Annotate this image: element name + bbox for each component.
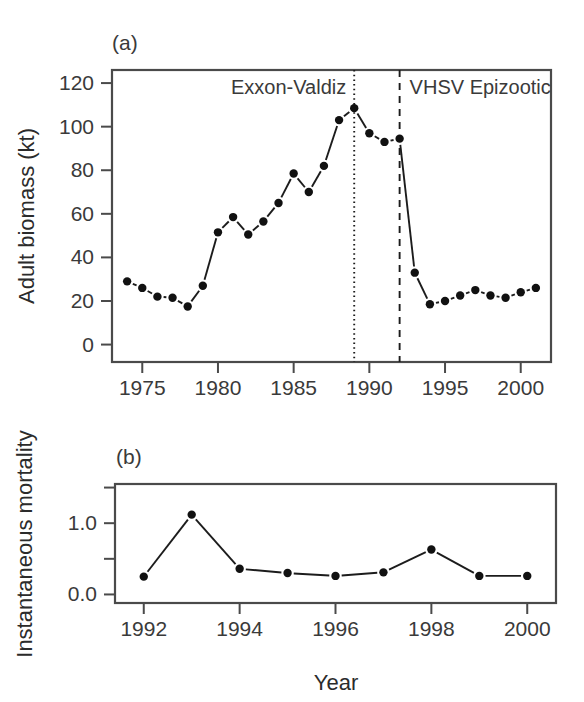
panel-a-segment	[191, 291, 199, 302]
panel-b-segment	[196, 519, 236, 564]
panel-b-xtick-label: 1998	[408, 617, 455, 640]
panel-b-segment	[148, 520, 188, 572]
panel-a-segment	[205, 238, 217, 279]
panel-a-data-point	[214, 228, 222, 236]
panel-b-label: (b)	[116, 445, 142, 468]
panel-a-data-point	[229, 213, 237, 221]
panel-a-data-point	[199, 282, 207, 290]
panel-a-xtick-label: 1985	[270, 376, 317, 399]
panel-a-data-point	[183, 302, 191, 310]
panel-a-segment	[375, 136, 379, 139]
panel-a-annotations: Exxon-ValdizVHSV Epizootic	[231, 76, 551, 98]
panel-a-event-lines	[354, 70, 399, 362]
panel-a-segment	[417, 278, 427, 298]
panel-a-data-point	[259, 217, 267, 225]
panel-b-plot-frame	[115, 484, 556, 603]
panel-a-segment	[312, 171, 321, 186]
panel-a-xtick-label: 1980	[195, 376, 242, 399]
panel-a-plot-frame	[112, 70, 551, 362]
panel-b-series	[140, 510, 532, 580]
panel-a-data-point	[244, 230, 252, 238]
panel-a-data-point	[335, 116, 343, 124]
panel-b-segments	[148, 519, 521, 576]
panel-a-label: (a)	[112, 31, 138, 54]
panel-b-xlabel: Year	[314, 670, 358, 695]
panel-b-data-point	[283, 569, 291, 577]
panel-a-data-point	[441, 297, 449, 305]
panel-b-ytick-label: 1.0	[68, 511, 97, 534]
panel-b-data-point	[187, 510, 195, 518]
figure-container: (a) Adult biomass (kt) 02040608010012019…	[0, 0, 584, 702]
panel-a-segment	[344, 112, 349, 116]
panel-a-segment	[481, 292, 484, 293]
panel-a-segment	[527, 290, 530, 291]
panel-a-ytick-label: 60	[71, 202, 94, 225]
panel-b-xtick-label: 2000	[504, 617, 551, 640]
panel-a-markers	[123, 104, 540, 311]
panel-a-data-point	[501, 294, 509, 302]
panel-a-xtick-label: 2000	[497, 376, 544, 399]
panel-a-data-point	[305, 188, 313, 196]
chart-svg: (a) Adult biomass (kt) 02040608010012019…	[0, 0, 584, 702]
panel-a-ylabel: Adult biomass (kt)	[14, 128, 39, 304]
panel-b-data-point	[523, 572, 531, 580]
panel-a-data-point	[350, 104, 358, 112]
panel-a-data-point	[471, 286, 479, 294]
panel-b-segment	[342, 573, 378, 576]
panel-a-xtick-label: 1990	[346, 376, 393, 399]
panel-a-segment	[451, 298, 454, 299]
panel-a-segment	[222, 221, 228, 227]
panel-a-annotation-2: VHSV Epizootic	[410, 76, 551, 98]
panel-b-xtick-label: 1992	[120, 617, 167, 640]
panel-a: (a) Adult biomass (kt) 02040608010012019…	[14, 31, 551, 399]
panel-a-segment	[511, 294, 514, 295]
panel-a-data-point	[274, 199, 282, 207]
panel-a-segment	[326, 126, 337, 160]
panel-a-xtick-label: 1975	[119, 376, 166, 399]
panel-b-segment	[294, 573, 330, 575]
panel-b-segment	[437, 553, 474, 573]
panel-b-segment	[389, 552, 426, 569]
panel-a-data-point	[411, 268, 419, 276]
panel-a-data-point	[289, 169, 297, 177]
panel-a-segment	[148, 291, 152, 294]
panel-a-ytick-label: 120	[59, 71, 94, 94]
panel-a-segment	[267, 208, 274, 217]
panel-b-data-point	[235, 565, 243, 573]
panel-a-segment	[237, 222, 244, 230]
panel-a-segment	[133, 284, 137, 286]
panel-a-tick-labels: 020406080100120197519801985199019952000	[59, 71, 544, 399]
panel-a-data-point	[138, 284, 146, 292]
panel-b-xtick-label: 1994	[216, 617, 263, 640]
panel-a-data-point	[395, 134, 403, 142]
panel-a-data-point	[153, 292, 161, 300]
panel-a-segment	[281, 179, 290, 197]
panel-a-ytick-label: 0	[82, 333, 94, 356]
panel-b-data-point	[427, 545, 435, 553]
panel-a-segment	[357, 113, 366, 127]
panel-a-segment	[400, 145, 414, 267]
panel-a-ytick-label: 40	[71, 245, 94, 268]
panel-b: (b) Instantaneous mortality Year 0.01.01…	[12, 430, 556, 695]
panel-a-data-point	[123, 277, 131, 285]
panel-a-segment	[178, 301, 182, 304]
panel-a-series	[123, 104, 540, 311]
panel-a-ytick-label: 80	[71, 158, 94, 181]
panel-a-segments	[133, 112, 530, 303]
panel-a-xtick-label: 1995	[422, 376, 469, 399]
panel-a-data-point	[320, 162, 328, 170]
panel-b-ticks	[104, 488, 527, 614]
panel-a-segment	[436, 302, 439, 303]
panel-a-data-point	[426, 300, 434, 308]
panel-b-ylabel: Instantaneous mortality	[12, 430, 37, 657]
panel-a-segment	[298, 178, 305, 187]
panel-a-data-point	[380, 138, 388, 146]
panel-b-data-point	[475, 572, 483, 580]
panel-b-data-point	[331, 572, 339, 580]
panel-a-ytick-label: 20	[71, 289, 94, 312]
panel-a-segment	[253, 226, 259, 231]
panel-b-ytick-label: 0.0	[68, 582, 97, 605]
panel-a-annotation-1: Exxon-Valdiz	[231, 76, 346, 98]
panel-a-data-point	[517, 288, 525, 296]
panel-b-xtick-label: 1996	[312, 617, 359, 640]
